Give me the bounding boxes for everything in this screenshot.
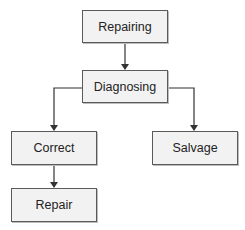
node-repairing: Repairing [82, 10, 168, 43]
node-repair: Repair [11, 188, 97, 222]
node-correct: Correct [11, 131, 97, 165]
node-salvage: Salvage [152, 131, 238, 165]
edge-diagnosing-correct [54, 88, 82, 130]
node-diagnosing: Diagnosing [82, 70, 168, 103]
edge-diagnosing-salvage [167, 88, 194, 130]
